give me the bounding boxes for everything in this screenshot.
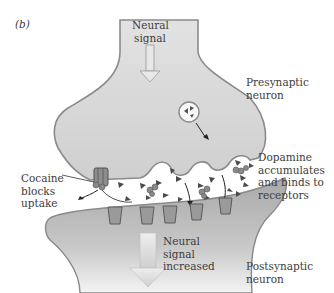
- dopamine-label: Dopamine accumulates and binds to recept…: [258, 151, 325, 201]
- panel-label: (b): [15, 18, 30, 31]
- neural-signal-label: Neural signal: [132, 19, 168, 44]
- cocaine-molecule: [93, 182, 99, 188]
- presynaptic-neuron: [54, 20, 265, 180]
- dopamine-transporter: [93, 168, 108, 190]
- cocaine-molecules: [147, 166, 249, 199]
- synaptic-vesicle: [179, 102, 199, 122]
- presynaptic-neuron-label: Presynaptic neuron: [246, 76, 309, 101]
- cocaine-label: Cocaine blocks uptake: [21, 172, 64, 210]
- postsynaptic-neuron-label: Postsynaptic neuron: [246, 260, 313, 285]
- neural-signal-increased-label: Neural signal increased: [163, 235, 215, 273]
